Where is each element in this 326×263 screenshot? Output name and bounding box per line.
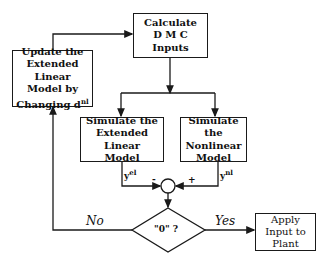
minus-sign: - bbox=[152, 174, 156, 184]
apply-line-3: Plant bbox=[272, 238, 298, 250]
simlin-line-2: Extended Linear bbox=[81, 127, 163, 152]
update-line-4: Changing dnl bbox=[16, 96, 88, 112]
apply-input-box: Apply Input to Plant bbox=[255, 213, 316, 251]
flowchart: Calculate D M C Inputs Update the Extend… bbox=[0, 0, 326, 263]
apply-line-2: Input to bbox=[265, 226, 305, 238]
update-line-2: Extended Linear bbox=[13, 58, 92, 83]
decision-label: "0" ? bbox=[154, 224, 178, 234]
simnl-line-3: Model bbox=[196, 152, 231, 165]
simulate-nonlinear-box: Simulate the Nonlinear Model bbox=[180, 117, 247, 162]
y-nonlinear-sup: nl bbox=[225, 168, 233, 177]
update-line-3: Model by bbox=[27, 83, 78, 96]
calc-line-2: D M C bbox=[153, 29, 188, 42]
simlin-line-1: Simulate the bbox=[86, 115, 158, 128]
y-linear-sup: el bbox=[129, 168, 136, 177]
simulate-linear-box: Simulate the Extended Linear Model bbox=[80, 117, 164, 162]
update-line-1: Update the bbox=[22, 46, 84, 59]
simlin-line-3: Model bbox=[105, 152, 140, 165]
simnl-line-2: Nonlinear bbox=[185, 140, 241, 153]
update-model-box: Update the Extended Linear Model by Chan… bbox=[12, 50, 93, 107]
update-sup: nl bbox=[81, 97, 89, 106]
simnl-line-1: Simulate the bbox=[181, 115, 246, 140]
calc-line-3: Inputs bbox=[152, 42, 188, 55]
y-linear-label: yel bbox=[124, 168, 136, 181]
calculate-dmc-inputs-box: Calculate D M C Inputs bbox=[133, 13, 208, 58]
calc-line-1: Calculate bbox=[144, 17, 197, 30]
y-nonlinear-label: ynl bbox=[220, 168, 233, 181]
yes-branch-label: Yes bbox=[215, 214, 235, 228]
plus-sign: + bbox=[188, 175, 196, 185]
apply-line-1: Apply bbox=[271, 214, 300, 226]
update-line-4-text: Changing d bbox=[16, 99, 81, 110]
no-branch-label: No bbox=[86, 214, 104, 228]
